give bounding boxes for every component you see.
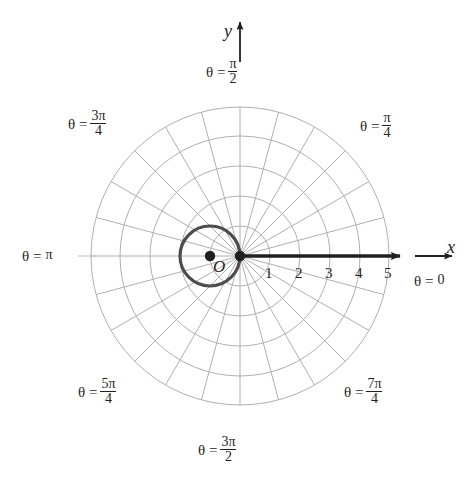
angular-gridline	[201, 112, 240, 256]
pole-dot	[235, 251, 245, 261]
angle-label-fraction: 3π 2	[220, 435, 236, 465]
angle-label-theta-0: θ = 0	[414, 274, 445, 289]
angle-label-lhs: θ =	[206, 65, 225, 80]
fraction-denominator: 4	[366, 391, 382, 407]
angle-label-theta-7pi-4: θ = 7π 4	[344, 378, 382, 408]
angle-label-value: 0	[436, 273, 445, 287]
fraction-denominator: 2	[220, 449, 236, 465]
x-tick-1: 1	[265, 266, 273, 281]
fraction-numerator: π	[382, 111, 391, 125]
angular-gridline	[201, 256, 240, 400]
angular-gridline	[240, 151, 345, 256]
x-tick-4: 4	[355, 266, 363, 281]
angle-label-lhs: θ =	[414, 274, 433, 289]
polar-plot-figure: y x O 1 2 3 4 5 θ = π 2 θ = π 4 θ =	[0, 0, 475, 485]
fraction-numerator: 3π	[90, 109, 106, 123]
angle-label-fraction: 5π 4	[100, 377, 116, 407]
angular-gridline	[240, 112, 279, 256]
angle-label-theta-5pi-4: θ = 5π 4	[78, 378, 116, 408]
fraction-denominator: 4	[382, 125, 391, 141]
angle-label-theta-3pi-4: θ = 3π 4	[68, 110, 106, 140]
origin-label: O	[213, 258, 225, 275]
angular-gridline	[240, 256, 279, 400]
angular-gridline	[240, 217, 384, 256]
angle-label-lhs: θ =	[198, 443, 217, 458]
angle-label-fraction: 7π 4	[366, 377, 382, 407]
x-axis-letter: x	[447, 238, 455, 256]
angle-label-fraction: π 2	[228, 57, 237, 87]
angle-label-fraction: π 4	[382, 111, 391, 141]
angular-gridline	[96, 217, 240, 256]
angle-label-lhs: θ =	[78, 385, 97, 400]
angle-label-value: π	[44, 248, 53, 262]
fraction-numerator: 3π	[220, 435, 236, 449]
x-tick-5: 5	[384, 266, 392, 281]
fraction-numerator: 7π	[366, 377, 382, 391]
x-tick-3: 3	[325, 266, 333, 281]
fraction-denominator: 2	[228, 71, 237, 87]
fraction-numerator: 5π	[100, 377, 116, 391]
angle-label-lhs: θ =	[360, 119, 379, 134]
fraction-denominator: 4	[90, 123, 106, 139]
angle-label-lhs: θ =	[344, 385, 363, 400]
angle-label-theta-pi-4: θ = π 4	[360, 112, 391, 142]
fraction-denominator: 4	[100, 391, 116, 407]
angle-label-lhs: θ =	[22, 249, 41, 264]
angle-label-numerator: 0	[436, 273, 445, 287]
angle-label-theta-3pi-2: θ = 3π 2	[198, 436, 236, 466]
x-tick-2: 2	[295, 266, 303, 281]
angular-gridline	[135, 151, 240, 256]
y-axis-letter: y	[224, 22, 232, 40]
angle-label-theta-pi: θ = π	[22, 249, 53, 264]
angle-label-numerator: π	[44, 248, 53, 262]
angle-label-fraction: 3π 4	[90, 109, 106, 139]
angle-label-lhs: θ =	[68, 117, 87, 132]
polar-plot-canvas	[0, 0, 475, 485]
angle-label-theta-pi-2: θ = π 2	[206, 58, 237, 88]
fraction-numerator: π	[228, 57, 237, 71]
